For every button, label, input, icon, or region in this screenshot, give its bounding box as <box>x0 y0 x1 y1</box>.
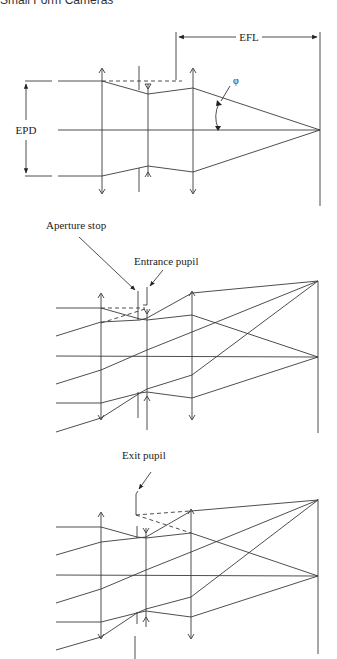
entrance-pupil-label: Entrance pupil <box>134 255 198 267</box>
ray-4 <box>56 357 318 403</box>
optical-diagrams: EPD EFL φ Aperture st <box>0 0 337 659</box>
exit-pupil-leader <box>139 472 151 489</box>
angle-arc <box>216 103 219 128</box>
efl-label: EFL <box>239 31 259 43</box>
ray-4 <box>56 576 318 622</box>
marginal-ray-bottom <box>58 130 320 176</box>
ray-2 <box>56 500 318 555</box>
figure-entrance-pupil: Aperture stop Entrance pupil <box>46 219 318 433</box>
entrance-pupil-leader <box>150 270 163 286</box>
figure-efl-epd: EPD EFL φ <box>16 31 320 206</box>
exit-pupil-marker <box>136 491 138 515</box>
exit-pupil-label: Exit pupil <box>122 449 166 461</box>
optical-axis <box>56 575 318 576</box>
ray-2 <box>56 281 318 336</box>
ray-3 <box>56 500 318 603</box>
ray-1 <box>56 527 318 576</box>
virtual-ray-top <box>136 511 190 515</box>
angle-label: φ <box>233 75 239 86</box>
epd-label: EPD <box>16 124 37 136</box>
aperture-stop-label: Aperture stop <box>46 219 107 231</box>
aperture-stop-leader <box>79 237 135 290</box>
figure-exit-pupil: Exit pupil <box>56 449 318 659</box>
ray-3 <box>56 281 318 384</box>
optical-axis <box>56 356 318 357</box>
entrance-pupil-marker <box>143 287 147 305</box>
marginal-ray-top <box>58 81 320 130</box>
ray-1 <box>56 308 318 357</box>
